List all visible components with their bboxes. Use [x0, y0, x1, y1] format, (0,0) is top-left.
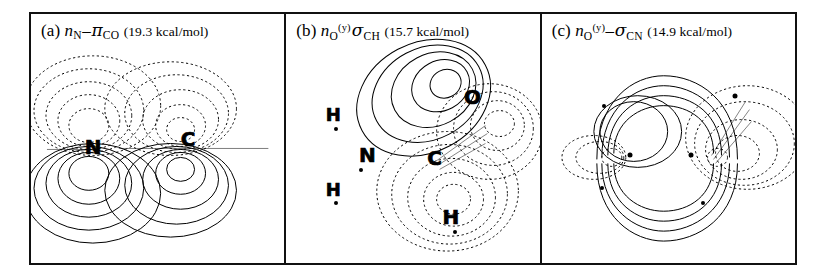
panel-a: (a) nN–πCO (19.3 kcal/mol)	[31, 14, 284, 263]
panel-b-contour-plot	[286, 14, 539, 263]
atom-label-h-lower: H	[326, 181, 341, 199]
nucleus-dot	[733, 94, 738, 99]
panel-b: (b) nO(y)σCH (15.7 kcal/mol)	[284, 14, 539, 263]
nucleus-dot	[602, 104, 606, 108]
panel-c-positive-lobes	[594, 76, 738, 241]
figure-frame: (a) nN–πCO (19.3 kcal/mol)	[29, 12, 797, 265]
nucleus-dot	[628, 152, 633, 157]
atom-label-h-upper: H	[326, 106, 341, 124]
atom-label-c: C	[181, 129, 196, 149]
panel-b-contours	[286, 14, 539, 263]
nucleus-dot	[334, 201, 338, 205]
atom-label-n: N	[359, 145, 376, 165]
panel-a-contour-plot	[31, 14, 284, 263]
panel-a-contours	[31, 14, 284, 263]
nucleus-dot	[334, 127, 338, 131]
panel-a-negative-lobes	[31, 56, 236, 156]
nucleus-dot	[701, 201, 705, 205]
atom-label-o: O	[464, 87, 481, 107]
panel-c-contours	[542, 14, 795, 263]
panel-c-contour-plot	[542, 14, 795, 263]
atom-label-c: C	[427, 148, 442, 168]
panel-a-positive-lobes	[31, 143, 236, 243]
panel-c: (c) nO(y)–σCN (14.9 kcal/mol)	[540, 14, 795, 263]
nucleus-dot	[600, 186, 604, 190]
atom-label-n: N	[85, 137, 102, 157]
atom-label-h-bottom: H	[443, 207, 460, 227]
nucleus-dot	[453, 230, 457, 234]
nucleus-dot	[359, 168, 363, 172]
nucleus-dot	[689, 152, 694, 157]
